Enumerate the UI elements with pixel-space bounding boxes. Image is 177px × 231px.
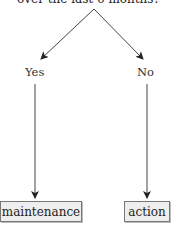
maintenance-box: maintenance <box>0 201 82 222</box>
yes-label: Yes <box>25 65 44 79</box>
no-label: No <box>137 65 154 79</box>
arrow-to-no <box>94 9 143 59</box>
action-box: action <box>124 201 170 222</box>
arrow-to-yes <box>41 9 94 59</box>
decision-arrows <box>0 0 177 231</box>
